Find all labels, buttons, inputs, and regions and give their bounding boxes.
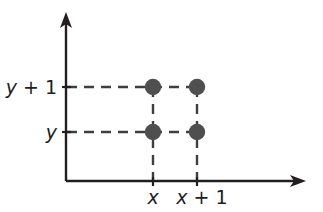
y-axis-label-y-var: y bbox=[45, 121, 58, 143]
lattice-point-x-yplus1 bbox=[145, 79, 161, 95]
axis-labels: y + 1 y x x + 1 bbox=[5, 76, 228, 209]
x-axis-label-x-plus-1: x + 1 bbox=[175, 186, 227, 208]
lattice-square-diagram: y + 1 y x x + 1 bbox=[0, 0, 323, 212]
y-axis-label-y-plus-1-op: + bbox=[17, 76, 45, 98]
lattice-point-xplus1-y bbox=[189, 124, 205, 140]
y-axis-label-y-plus-1-var: y bbox=[5, 76, 18, 98]
x-axis-label-x-plus-1-num: 1 bbox=[216, 186, 228, 208]
figure-container: y + 1 y x x + 1 bbox=[0, 0, 323, 212]
y-axis-label-y: y bbox=[45, 121, 58, 143]
axes bbox=[60, 12, 306, 187]
tick-marks bbox=[62, 87, 197, 186]
lattice-point-x-y bbox=[145, 124, 161, 140]
x-axis-label-x-plus-1-var: x bbox=[175, 186, 188, 208]
x-axis-label-x-var: x bbox=[146, 186, 159, 208]
x-axis-label-x-plus-1-op: + bbox=[188, 186, 216, 208]
y-axis-label-y-plus-1-num: 1 bbox=[45, 76, 57, 98]
y-axis-label-y-plus-1: y + 1 bbox=[5, 76, 57, 98]
dashed-guide-lines bbox=[67, 87, 197, 180]
lattice-point-xplus1-yplus1 bbox=[189, 79, 205, 95]
x-axis-label-x: x bbox=[146, 186, 159, 208]
